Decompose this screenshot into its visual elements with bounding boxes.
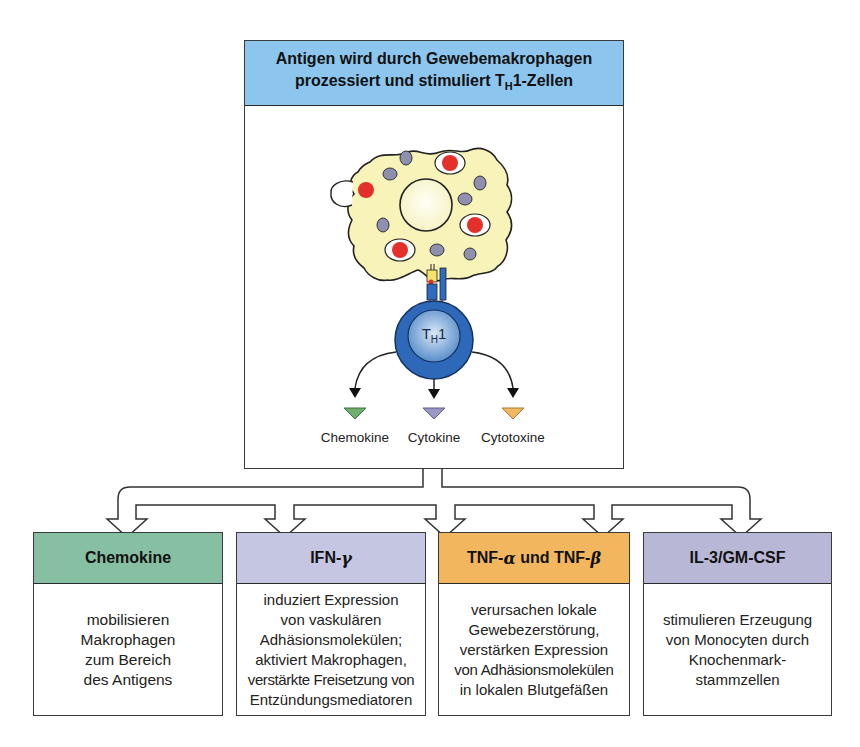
cytotoxin-triangle-icon: [502, 408, 524, 419]
antigen-icon: [358, 182, 374, 198]
cytokine-triangle-icon: [423, 408, 445, 419]
secretion-label-cytotoxin: Cytotoxine: [463, 430, 563, 445]
receptor-complex-icon: [427, 264, 446, 306]
card-title: IL-3/GM-CSF: [644, 533, 831, 584]
card-title: TNF-α und TNF-β: [439, 533, 629, 584]
card-description: induziert Expressionvon vaskulärenAdhäsi…: [237, 584, 425, 716]
card-chemokine: Chemokine mobilisierenMakrophagenzum Ber…: [33, 532, 223, 716]
th1-label: TH1: [414, 325, 454, 345]
card-tnf: TNF-α und TNF-β verursachen lokaleGewebe…: [438, 532, 630, 716]
card-title: IFN-γ: [237, 533, 425, 584]
card-description: verursachen lokaleGewebezerstörung,verst…: [439, 584, 629, 716]
card-title: Chemokine: [34, 533, 222, 584]
arrowheads: [349, 388, 519, 399]
macrophage-icon: [331, 148, 512, 280]
card-il3-gmcsf: IL-3/GM-CSF stimulieren Erzeugungvon Mon…: [643, 532, 832, 716]
card-ifn-gamma: IFN-γ induziert Expressionvon vaskulären…: [236, 532, 426, 716]
chemokine-triangle-icon: [344, 408, 366, 419]
branch-connector: [107, 469, 761, 537]
card-description: stimulieren Erzeugungvon Monocyten durch…: [644, 584, 831, 716]
card-description: mobilisierenMakrophagenzum Bereichdes An…: [34, 584, 222, 716]
